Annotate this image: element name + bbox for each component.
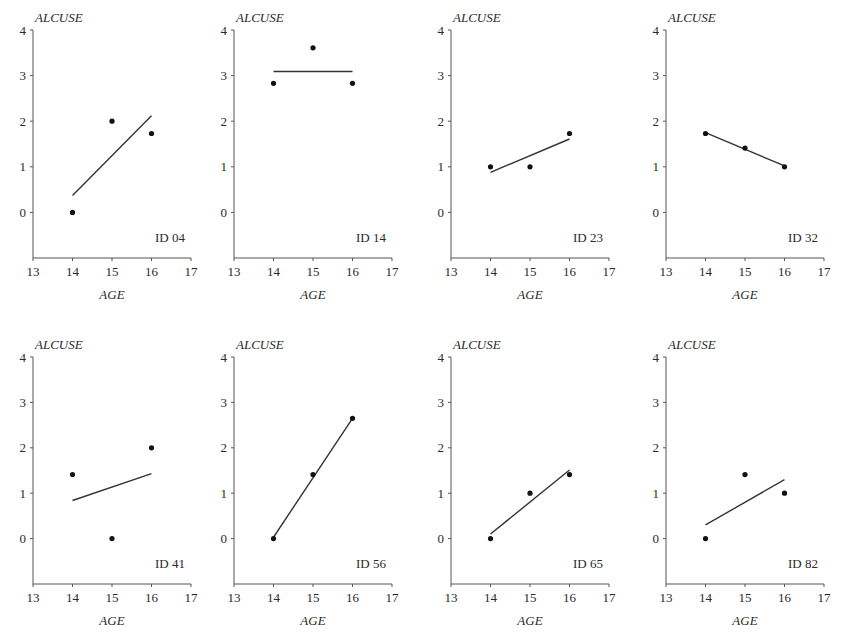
fitted-line — [73, 474, 152, 501]
y-tick-label: 2 — [221, 114, 228, 129]
y-tick-label: 1 — [221, 486, 228, 501]
panel-id-label: ID 32 — [788, 230, 818, 245]
x-tick-label: 17 — [818, 590, 832, 605]
x-tick-label: 15 — [307, 264, 320, 279]
x-tick-label: 17 — [185, 590, 199, 605]
panel-id-32: 012341314151617ALCUSEAGEID 32 — [653, 10, 832, 302]
panel-id-label: ID 41 — [155, 556, 185, 571]
y-tick-label: 2 — [438, 440, 445, 455]
y-tick-label: 0 — [438, 531, 445, 546]
x-tick-label: 13 — [660, 264, 673, 279]
data-point — [527, 164, 532, 169]
x-tick-label: 16 — [778, 264, 792, 279]
y-tick-label: 4 — [438, 23, 445, 38]
panel-id-14: 012341314151617ALCUSEAGEID 14 — [221, 10, 400, 302]
panel-id-04: 012341314151617ALCUSEAGEID 04 — [20, 10, 199, 302]
data-point — [310, 472, 315, 477]
x-tick-label: 17 — [386, 264, 400, 279]
fitted-line — [73, 116, 152, 196]
x-tick-label: 15 — [524, 590, 537, 605]
x-tick-label: 15 — [739, 264, 752, 279]
y-tick-label: 4 — [20, 350, 27, 365]
data-point — [271, 536, 276, 541]
x-tick-label: 16 — [346, 590, 360, 605]
y-tick-label: 2 — [653, 114, 660, 129]
y-tick-label: 1 — [20, 159, 27, 174]
y-tick-label: 0 — [20, 205, 27, 220]
y-tick-label: 0 — [221, 205, 228, 220]
x-axis-title: AGE — [98, 287, 124, 302]
panel-id-label: ID 23 — [573, 230, 603, 245]
data-point — [70, 210, 75, 215]
y-tick-label: 2 — [653, 440, 660, 455]
x-tick-label: 14 — [66, 264, 80, 279]
y-tick-label: 1 — [221, 159, 228, 174]
y-tick-label: 3 — [20, 395, 27, 410]
data-point — [782, 491, 787, 496]
y-tick-label: 4 — [438, 350, 445, 365]
y-axis-title: ALCUSE — [34, 10, 83, 25]
x-tick-label: 17 — [603, 590, 617, 605]
data-point — [742, 146, 747, 151]
y-tick-label: 3 — [653, 68, 660, 83]
x-tick-label: 16 — [145, 590, 159, 605]
y-axis-title: ALCUSE — [452, 10, 501, 25]
x-tick-label: 17 — [603, 264, 617, 279]
x-tick-label: 14 — [699, 590, 713, 605]
fitted-line — [706, 480, 785, 525]
x-tick-label: 15 — [106, 264, 119, 279]
y-tick-label: 3 — [20, 68, 27, 83]
x-tick-label: 16 — [563, 264, 577, 279]
x-axis-title: AGE — [516, 613, 542, 628]
y-tick-label: 3 — [438, 68, 445, 83]
x-tick-label: 14 — [484, 264, 498, 279]
data-point — [350, 416, 355, 421]
x-tick-label: 13 — [660, 590, 673, 605]
x-tick-label: 17 — [818, 264, 832, 279]
x-tick-label: 13 — [228, 264, 241, 279]
panel-id-56: 012341314151617ALCUSEAGEID 56 — [221, 337, 400, 628]
x-tick-label: 16 — [563, 590, 577, 605]
figure-small-multiples: 012341314151617ALCUSEAGEID 0401234131415… — [0, 0, 844, 640]
y-axis-title: ALCUSE — [667, 337, 716, 352]
x-axis-title: AGE — [731, 613, 757, 628]
fitted-line — [274, 418, 353, 537]
data-point — [109, 119, 114, 124]
y-tick-label: 4 — [653, 23, 660, 38]
data-point — [742, 472, 747, 477]
y-tick-label: 2 — [438, 114, 445, 129]
data-point — [488, 536, 493, 541]
y-axis-title: ALCUSE — [667, 10, 716, 25]
x-tick-label: 16 — [145, 264, 159, 279]
y-tick-label: 1 — [438, 486, 445, 501]
panel-id-82: 012341314151617ALCUSEAGEID 82 — [653, 337, 832, 628]
panel-id-label: ID 04 — [155, 230, 185, 245]
x-tick-label: 14 — [699, 264, 713, 279]
y-tick-label: 0 — [20, 531, 27, 546]
y-tick-label: 4 — [221, 350, 228, 365]
x-tick-label: 14 — [66, 590, 80, 605]
y-tick-label: 2 — [20, 114, 27, 129]
y-tick-label: 0 — [221, 531, 228, 546]
x-tick-label: 16 — [346, 264, 360, 279]
data-point — [527, 491, 532, 496]
data-point — [350, 81, 355, 86]
data-point — [310, 45, 315, 50]
y-tick-label: 3 — [653, 395, 660, 410]
y-tick-label: 3 — [221, 395, 228, 410]
y-tick-label: 0 — [653, 531, 660, 546]
panel-id-label: ID 65 — [573, 556, 603, 571]
x-tick-label: 13 — [445, 590, 458, 605]
x-axis-title: AGE — [299, 287, 325, 302]
y-tick-label: 0 — [438, 205, 445, 220]
x-tick-label: 13 — [228, 590, 241, 605]
x-tick-label: 14 — [267, 264, 281, 279]
x-tick-label: 13 — [27, 264, 40, 279]
x-tick-label: 17 — [386, 590, 400, 605]
data-point — [149, 445, 154, 450]
panel-id-label: ID 14 — [356, 230, 386, 245]
y-tick-label: 2 — [20, 440, 27, 455]
x-tick-label: 17 — [185, 264, 199, 279]
panel-id-65: 012341314151617ALCUSEAGEID 65 — [438, 337, 617, 628]
y-axis-title: ALCUSE — [235, 337, 284, 352]
